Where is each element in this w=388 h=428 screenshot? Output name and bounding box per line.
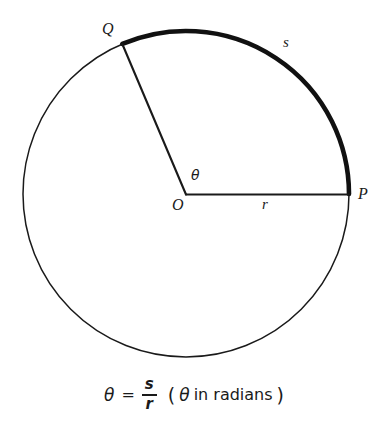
arc-s-highlight: [122, 31, 349, 194]
formula-open-paren: (: [168, 384, 175, 406]
formula-row: θ = s r ( θ in radians ): [104, 377, 284, 413]
circle-diagram-svg: [0, 0, 388, 428]
formula-caption: θ = s r ( θ in radians ): [0, 377, 388, 413]
point-label-o: O: [172, 197, 184, 213]
formula-denominator-r: r: [143, 397, 156, 413]
angle-label-theta: θ: [191, 168, 200, 182]
segment-label-r: r: [262, 197, 268, 212]
formula-theta: θ: [104, 385, 114, 405]
formula-note-group: ( θ in radians ): [168, 384, 284, 406]
radius-oq-line: [122, 44, 186, 195]
figure-root: Q P O r s θ θ = s r ( θ in radians ): [0, 0, 388, 428]
formula-numerator-s: s: [142, 377, 157, 393]
formula-close-paren: ): [277, 384, 284, 406]
formula-note-text: in radians: [194, 385, 273, 404]
formula-note-theta: θ: [179, 385, 189, 405]
arc-label-s: s: [283, 35, 289, 50]
point-label-p: P: [358, 186, 368, 202]
formula-equals: =: [120, 385, 135, 404]
point-label-q: Q: [102, 21, 114, 37]
formula-fraction: s r: [142, 377, 157, 413]
